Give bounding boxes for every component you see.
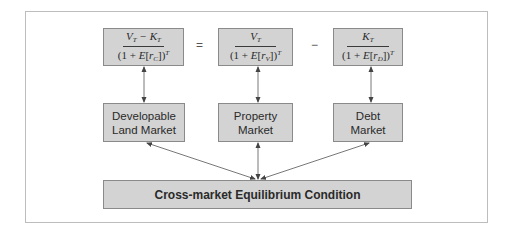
- arrow-land-to-equilibrium: [147, 143, 255, 179]
- arrows-layer: [0, 0, 509, 234]
- arrow-debt-to-equilibrium: [261, 143, 369, 179]
